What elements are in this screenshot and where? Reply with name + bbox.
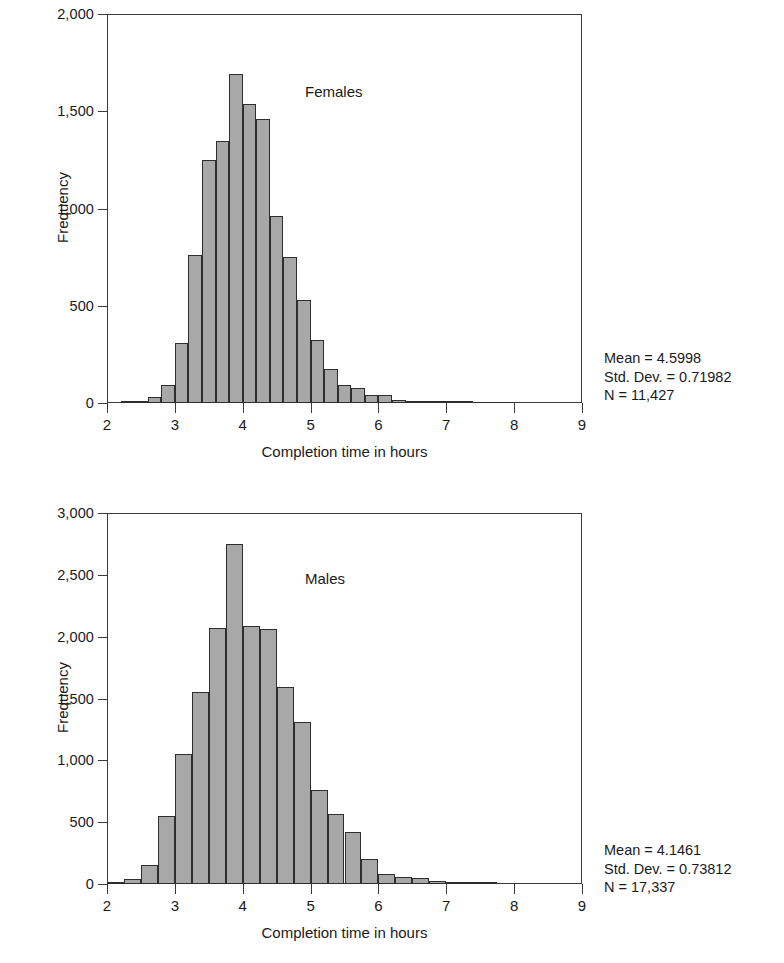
bar bbox=[277, 687, 294, 884]
y-tick-label: 1,500 bbox=[57, 103, 94, 119]
bar bbox=[297, 300, 311, 403]
stats-n-males: N = 17,337 bbox=[604, 878, 732, 897]
x-tick-label: 7 bbox=[442, 416, 450, 433]
bar bbox=[192, 692, 209, 884]
bar bbox=[141, 865, 158, 884]
bar bbox=[324, 369, 338, 403]
bar bbox=[392, 400, 406, 404]
y-tick-mark bbox=[98, 111, 107, 112]
y-tick-mark bbox=[98, 575, 107, 576]
bar bbox=[134, 401, 148, 403]
y-tick-mark bbox=[98, 14, 107, 15]
x-tick-label: 2 bbox=[103, 416, 111, 433]
bar bbox=[338, 385, 352, 403]
y-tick-label: 1,000 bbox=[57, 752, 94, 768]
bar bbox=[328, 814, 345, 884]
bar bbox=[188, 255, 202, 403]
x-tick-label: 8 bbox=[510, 416, 518, 433]
y-tick-mark bbox=[98, 760, 107, 761]
histogram-females: 05001,0001,5002,000 23456789 Frequency C… bbox=[0, 0, 784, 480]
bar bbox=[395, 877, 412, 884]
bar bbox=[446, 882, 463, 884]
bar bbox=[460, 401, 474, 403]
x-tick-label: 6 bbox=[374, 416, 382, 433]
x-tick-mark bbox=[582, 403, 583, 413]
bar bbox=[243, 626, 260, 884]
y-tick-label: 2,000 bbox=[57, 629, 94, 645]
y-tick-label: 2,000 bbox=[57, 6, 94, 22]
bar bbox=[311, 340, 325, 403]
x-tick-mark bbox=[446, 403, 447, 413]
stats-stddev-females: Std. Dev. = 0.71982 bbox=[604, 368, 732, 387]
bars-layer-males bbox=[107, 513, 582, 884]
y-tick-mark bbox=[98, 306, 107, 307]
x-tick-mark bbox=[446, 884, 447, 894]
bar bbox=[283, 257, 297, 403]
bar bbox=[209, 628, 226, 884]
x-tick-mark bbox=[107, 403, 108, 413]
bar bbox=[229, 74, 243, 403]
bar bbox=[480, 882, 497, 884]
y-tick-label: 2,500 bbox=[57, 567, 94, 583]
x-tick-mark bbox=[175, 403, 176, 413]
x-tick-mark bbox=[378, 403, 379, 413]
stats-stddev-males: Std. Dev. = 0.73812 bbox=[604, 860, 732, 879]
x-tick-label: 4 bbox=[239, 416, 247, 433]
y-axis-title-males: Frequency bbox=[54, 647, 71, 747]
bar bbox=[294, 722, 311, 884]
x-tick-label: 5 bbox=[306, 416, 314, 433]
x-tick-label: 6 bbox=[374, 897, 382, 914]
stats-mean-males: Mean = 4.1461 bbox=[604, 841, 732, 860]
x-tick-label: 3 bbox=[171, 416, 179, 433]
x-axis-title-males: Completion time in hours bbox=[107, 924, 582, 941]
bar bbox=[446, 401, 460, 403]
bar bbox=[311, 790, 328, 884]
histogram-males: 05001,0001,5002,0002,5003,000 23456789 F… bbox=[0, 480, 784, 963]
x-tick-mark bbox=[582, 884, 583, 894]
bar bbox=[419, 401, 433, 403]
x-tick-label: 3 bbox=[171, 897, 179, 914]
bar bbox=[161, 385, 175, 403]
bar bbox=[270, 216, 284, 403]
bar bbox=[501, 402, 515, 403]
x-axis-title-females: Completion time in hours bbox=[107, 443, 582, 460]
bar bbox=[256, 119, 270, 403]
bar bbox=[216, 141, 230, 403]
bar bbox=[378, 395, 392, 403]
bar bbox=[124, 879, 141, 884]
bar bbox=[351, 388, 365, 403]
bar bbox=[487, 402, 501, 403]
x-tick-label: 9 bbox=[578, 416, 586, 433]
stats-mean-females: Mean = 4.5998 bbox=[604, 349, 732, 368]
y-tick-mark bbox=[98, 822, 107, 823]
bar bbox=[226, 544, 243, 884]
bar bbox=[202, 160, 216, 403]
x-tick-mark bbox=[311, 403, 312, 413]
series-annotation-males: Males bbox=[305, 570, 345, 587]
x-tick-label: 9 bbox=[578, 897, 586, 914]
y-tick-label: 500 bbox=[70, 814, 95, 830]
x-tick-mark bbox=[107, 884, 108, 894]
stats-block-males: Mean = 4.1461 Std. Dev. = 0.73812 N = 17… bbox=[604, 841, 732, 897]
bar bbox=[361, 859, 378, 884]
x-tick-mark bbox=[243, 403, 244, 413]
bar bbox=[406, 401, 420, 403]
y-tick-mark bbox=[98, 403, 107, 404]
bar bbox=[148, 397, 162, 403]
y-tick-label: 0 bbox=[86, 876, 94, 892]
bar bbox=[365, 395, 379, 403]
x-tick-mark bbox=[514, 884, 515, 894]
bars-layer-females bbox=[107, 14, 582, 403]
y-tick-label: 500 bbox=[70, 298, 95, 314]
x-tick-mark bbox=[311, 884, 312, 894]
bar bbox=[260, 629, 277, 884]
bar bbox=[433, 401, 447, 403]
bar bbox=[175, 343, 189, 403]
x-tick-label: 7 bbox=[442, 897, 450, 914]
y-tick-mark bbox=[98, 637, 107, 638]
y-tick-mark bbox=[98, 699, 107, 700]
x-tick-label: 2 bbox=[103, 897, 111, 914]
x-tick-mark bbox=[514, 403, 515, 413]
x-tick-mark bbox=[378, 884, 379, 894]
y-tick-mark bbox=[98, 513, 107, 514]
